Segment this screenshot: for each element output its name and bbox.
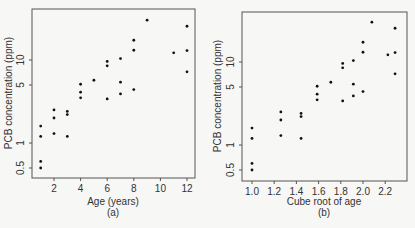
data-point bbox=[279, 111, 282, 114]
data-point bbox=[316, 93, 319, 96]
y-tick-label: 0.5 bbox=[15, 161, 26, 175]
y-axis-label-b: PCB concentration (ppm) bbox=[212, 40, 223, 152]
plot-frame-b bbox=[242, 12, 407, 181]
y-axis-label-a: PCB concentration (ppm) bbox=[3, 37, 14, 149]
data-point bbox=[352, 59, 355, 62]
x-tick-label: 4 bbox=[78, 183, 84, 194]
data-point bbox=[53, 132, 56, 135]
data-point bbox=[66, 113, 69, 116]
data-point bbox=[316, 85, 319, 88]
x-axis-a: 24681012 bbox=[51, 178, 193, 194]
data-point bbox=[39, 135, 42, 138]
data-point bbox=[79, 96, 82, 99]
y-tick-label: 10 bbox=[225, 56, 236, 68]
data-point bbox=[394, 72, 397, 75]
data-point bbox=[386, 53, 389, 56]
data-point bbox=[341, 66, 344, 69]
data-point bbox=[300, 137, 303, 140]
data-point bbox=[53, 117, 56, 120]
data-point bbox=[172, 51, 175, 54]
x-tick-label: 2 bbox=[51, 183, 57, 194]
y-tick-label: 1 bbox=[15, 140, 26, 146]
data-point bbox=[362, 51, 365, 54]
data-point bbox=[300, 112, 303, 115]
data-point bbox=[79, 83, 82, 86]
data-point bbox=[146, 19, 149, 22]
panel-caption-a: (a) bbox=[107, 207, 119, 218]
x-tick-label: 6 bbox=[104, 183, 110, 194]
data-point bbox=[279, 134, 282, 137]
y-tick-label: 0.5 bbox=[225, 163, 236, 177]
x-axis-b: 1.01.21.41.61.82.02.2 bbox=[245, 181, 393, 197]
data-point bbox=[106, 97, 109, 100]
panel-caption-b: (b) bbox=[318, 207, 330, 218]
data-point bbox=[93, 79, 96, 82]
data-point bbox=[352, 83, 355, 86]
chart-figure: 0.51510 24681012 PCB concentration (ppm)… bbox=[0, 0, 415, 228]
data-point bbox=[329, 81, 332, 84]
data-point bbox=[394, 51, 397, 54]
panel-a-age: 0.51510 24681012 PCB concentration (ppm)… bbox=[3, 9, 195, 218]
data-point bbox=[132, 39, 135, 42]
data-point bbox=[39, 160, 42, 163]
data-point bbox=[362, 41, 365, 44]
x-tick-label: 1.2 bbox=[267, 186, 281, 197]
data-point bbox=[186, 49, 189, 52]
x-tick-label: 12 bbox=[181, 183, 193, 194]
data-point bbox=[186, 70, 189, 73]
data-point bbox=[362, 90, 365, 93]
x-tick-label: 2.2 bbox=[378, 186, 392, 197]
y-tick-label: 10 bbox=[15, 54, 26, 66]
data-point bbox=[279, 119, 282, 122]
data-point bbox=[39, 167, 42, 170]
y-tick-label: 5 bbox=[225, 84, 236, 90]
data-point bbox=[66, 110, 69, 113]
x-axis-label-b: Cube root of age bbox=[287, 196, 362, 207]
x-tick-label: 1.0 bbox=[245, 186, 259, 197]
y-tick-label: 1 bbox=[225, 142, 236, 148]
data-point bbox=[341, 62, 344, 65]
data-point bbox=[186, 25, 189, 28]
data-point bbox=[341, 99, 344, 102]
data-point bbox=[251, 162, 254, 165]
data-point bbox=[106, 60, 109, 63]
data-point bbox=[251, 127, 254, 130]
data-point bbox=[132, 49, 135, 52]
data-point bbox=[352, 95, 355, 98]
data-point bbox=[79, 91, 82, 94]
data-point bbox=[316, 98, 319, 101]
data-point bbox=[106, 64, 109, 67]
panel-b-cube-root: 0.51510 1.01.21.41.61.82.02.2 PCB concen… bbox=[212, 12, 407, 218]
data-point bbox=[119, 81, 122, 84]
y-tick-label: 5 bbox=[15, 82, 26, 88]
scatter-points-b bbox=[251, 21, 397, 172]
x-tick-label: 8 bbox=[131, 183, 137, 194]
y-axis-b: 0.51510 bbox=[225, 56, 242, 177]
scatter-points-a bbox=[39, 19, 188, 170]
data-point bbox=[251, 169, 254, 172]
data-point bbox=[66, 135, 69, 138]
data-point bbox=[119, 57, 122, 60]
x-axis-label-a: Age (years) bbox=[87, 196, 139, 207]
data-point bbox=[53, 109, 56, 112]
data-point bbox=[119, 93, 122, 96]
data-point bbox=[251, 137, 254, 140]
data-point bbox=[394, 27, 397, 30]
data-point bbox=[132, 88, 135, 91]
plot-frame-a bbox=[32, 9, 195, 178]
y-axis-a: 0.51510 bbox=[15, 54, 32, 175]
data-point bbox=[300, 115, 303, 118]
data-point bbox=[370, 21, 373, 24]
data-point bbox=[39, 125, 42, 128]
x-tick-label: 10 bbox=[155, 183, 167, 194]
